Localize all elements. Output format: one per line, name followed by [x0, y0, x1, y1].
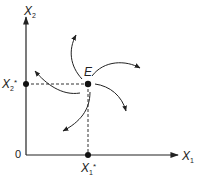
x-axis-label: X1: [182, 150, 194, 164]
trajectory-up-arrow: [71, 35, 82, 79]
x2-star-label: X2*: [2, 78, 17, 92]
equilibrium-point: [85, 81, 91, 87]
phase-diagram: [0, 0, 203, 182]
trajectory-down-arrow: [63, 92, 90, 131]
x1-star-point: [85, 152, 91, 158]
trajectory-right-arrow: [95, 84, 126, 111]
y-axis-label: X2: [24, 5, 36, 19]
origin-label: 0: [15, 149, 21, 160]
equilibrium-label: E: [84, 66, 92, 78]
trajectory-left-arrow: [35, 71, 80, 93]
trajectory-upper-right-arrow: [92, 63, 140, 76]
x2-star-point: [23, 81, 29, 87]
x1-star-label: X1*: [81, 162, 96, 176]
